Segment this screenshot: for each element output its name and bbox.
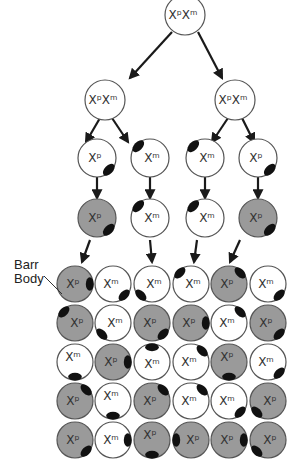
chromosome-label: Xᵖ — [249, 211, 262, 225]
chromosome-label: Xᵐ — [219, 316, 235, 330]
barr-body-icon — [86, 277, 94, 291]
cell-xm: Xᵐ — [185, 198, 224, 237]
chromosome-label: Xᵖ — [143, 394, 156, 408]
cell-xp: Xᵖ — [95, 344, 132, 380]
chromosome-label: Xᵖ — [66, 277, 79, 291]
cell-xm: Xᵐ — [95, 266, 132, 303]
cell-xp: Xᵖ — [239, 199, 278, 238]
chromosome-label: Xᵖ — [66, 433, 79, 447]
barr-body-icon — [68, 373, 82, 381]
chromosome-label: Xᵖ — [70, 316, 83, 330]
barr-body-icon — [124, 355, 132, 369]
cell-xm: Xᵐ — [130, 138, 169, 177]
barr-body-icon — [202, 316, 210, 330]
cell-xp: Xᵖ — [134, 305, 171, 342]
chromosome-label: Xᵖ — [220, 350, 233, 364]
cell-xpxm: XᵖXᵐ — [215, 80, 255, 120]
chromosome-label: Xᵖ — [259, 316, 272, 330]
chromosome-label: Xᵖ — [143, 428, 156, 442]
cell-xp: Xᵖ — [211, 344, 247, 381]
chromosome-label: Xᵖ — [88, 151, 101, 165]
chromosome-label: Xᵐ — [144, 151, 160, 165]
chromosome-label: Xᵖ — [143, 316, 156, 330]
cell-xp: Xᵖ — [134, 422, 170, 459]
chromosome-label: Xᵐ — [65, 350, 81, 364]
cell-xpxm: XᵖXᵐ — [165, 0, 205, 35]
chromosome-label: Xᵖ — [263, 394, 276, 408]
chromosome-label: Xᵐ — [199, 211, 215, 225]
cell-xp: Xᵖ — [211, 422, 248, 458]
barr-body-icon — [172, 433, 180, 447]
chromosome-label: Xᵖ — [220, 277, 233, 291]
cell-xm: Xᵐ — [133, 266, 170, 303]
lineage-arrow — [212, 118, 228, 142]
chromosome-label: Xᵖ — [263, 433, 276, 447]
cell-xp: Xᵖ — [249, 422, 286, 459]
chromosome-label: Xᵖ — [66, 394, 79, 408]
cell-xp: Xᵖ — [56, 304, 93, 341]
chromosome-label: Xᵐ — [219, 394, 235, 408]
chromosome-label: XᵖXᵐ — [88, 93, 117, 107]
chromosome-label: Xᵖ — [182, 316, 195, 330]
lineage-arrow — [130, 32, 172, 78]
cell-xpxm: XᵖXᵐ — [85, 80, 125, 120]
barr-body-icon — [145, 451, 159, 459]
chromosome-label: Xᵖ — [249, 151, 262, 165]
cells-layer: XᵖXᵐXᵖXᵐXᵖXᵐXᵖXᵐXᵐXᵖXᵖXᵐXᵐXᵖXᵖXᵐXᵐXᵐXᵖXᵐ… — [56, 0, 287, 459]
cell-xm: Xᵐ — [211, 383, 248, 420]
cell-xp: Xᵖ — [249, 383, 286, 420]
chromosome-label: Xᵐ — [181, 394, 197, 408]
cell-xp: Xᵖ — [239, 139, 278, 178]
cell-xp: Xᵖ — [57, 382, 94, 419]
chromosome-label: Xᵖ — [104, 355, 117, 369]
lineage-arrow — [194, 240, 197, 262]
barr-body-icon — [222, 373, 236, 381]
cell-xp: Xᵖ — [57, 266, 94, 302]
chromosome-label: Xᵖ — [186, 433, 199, 447]
chromosome-label: Xᵖ — [220, 433, 233, 447]
chromosome-label: XᵖXᵐ — [218, 93, 247, 107]
chromosome-label: Xᵐ — [103, 277, 119, 291]
x-inactivation-diagram: XᵖXᵐXᵖXᵐXᵖXᵐXᵖXᵐXᵐXᵖXᵖXᵐXᵐXᵖXᵖXᵐXᵐXᵐXᵖXᵐ… — [0, 0, 303, 471]
barr-label-line1: Barr — [14, 258, 44, 272]
cell-xm: Xᵐ — [185, 138, 224, 177]
cell-xp: Xᵖ — [134, 382, 171, 419]
cell-xp: Xᵖ — [211, 265, 248, 302]
cell-xm: Xᵐ — [95, 383, 131, 420]
chromosome-label: Xᵐ — [258, 277, 274, 291]
cell-xm: Xᵐ — [130, 198, 169, 237]
chromosome-label: Xᵐ — [144, 357, 160, 371]
lineage-arrow — [198, 32, 222, 78]
lineage-arrow — [242, 118, 254, 142]
cell-xm: Xᵐ — [95, 422, 132, 458]
lineage-arrow — [112, 118, 128, 142]
cell-xp: Xᵖ — [78, 139, 117, 178]
cell-xm: Xᵐ — [211, 304, 248, 341]
barr-body-icon — [240, 433, 248, 447]
cell-xm: Xᵐ — [94, 305, 131, 342]
cell-xp: Xᵖ — [250, 305, 287, 342]
cell-xm: Xᵐ — [250, 344, 287, 381]
cell-xp: Xᵖ — [172, 422, 209, 458]
cell-xm: Xᵐ — [57, 344, 93, 381]
lineage-arrow — [150, 240, 152, 262]
lineage-arrow — [82, 240, 90, 262]
chromosome-label: Xᵐ — [146, 277, 162, 291]
barr-label-line2: Body — [14, 272, 44, 286]
chromosome-label: Xᵐ — [258, 355, 274, 369]
barr-body-label: Barr Body — [14, 258, 44, 286]
chromosome-label: Xᵐ — [185, 277, 201, 291]
chromosome-label: Xᵐ — [103, 433, 119, 447]
chromosome-label: Xᵖ — [88, 211, 101, 225]
chromosome-label: XᵖXᵐ — [168, 8, 197, 22]
chromosome-label: Xᵐ — [144, 211, 160, 225]
cell-xp: Xᵖ — [173, 305, 210, 341]
cell-xm: Xᵐ — [134, 343, 170, 380]
cell-xp: Xᵖ — [78, 199, 117, 238]
chromosome-label: Xᵐ — [107, 316, 123, 330]
chromosome-label: Xᵐ — [103, 389, 119, 403]
cell-xm: Xᵐ — [172, 265, 209, 302]
lineage-arrow — [86, 118, 100, 142]
cell-xm: Xᵐ — [173, 343, 210, 380]
barr-body-icon — [106, 412, 120, 420]
